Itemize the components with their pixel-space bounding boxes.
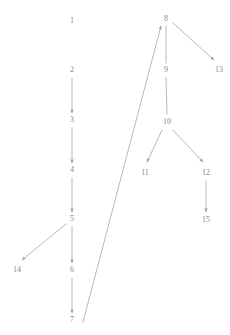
node-label-5[interactable]: 5 [70,215,74,223]
edge-5-to-14 [22,224,66,260]
edge-7-to-8 [83,26,161,322]
edge-9-to-10 [166,78,167,114]
node-label-9[interactable]: 9 [164,66,168,74]
edges-group [22,23,214,322]
node-label-7[interactable]: 7 [70,316,74,324]
node-label-3[interactable]: 3 [70,116,74,124]
node-label-13[interactable]: 13 [215,66,223,74]
edge-layer [0,0,230,335]
node-label-8[interactable]: 8 [164,15,168,23]
node-label-4[interactable]: 4 [70,166,74,174]
node-label-14[interactable]: 14 [13,266,21,274]
edge-10-to-12 [173,130,203,162]
node-label-12[interactable]: 12 [202,169,210,177]
node-label-11[interactable]: 11 [141,169,149,177]
node-label-10[interactable]: 10 [163,118,171,126]
node-label-6[interactable]: 6 [70,266,74,274]
edge-10-to-11 [147,130,162,162]
edge-8-to-13 [173,23,214,60]
diagram-canvas: 123456789101112131415 [0,0,230,335]
node-label-15[interactable]: 15 [202,216,210,224]
node-label-2[interactable]: 2 [70,66,74,74]
node-label-1[interactable]: 1 [70,17,74,25]
